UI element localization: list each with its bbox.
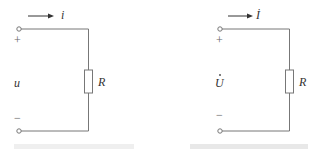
resistor-left (85, 70, 93, 93)
plus-sign-right: + (216, 34, 223, 46)
current-phasor-label-right: İ (256, 9, 260, 21)
terminal-top-right (218, 27, 222, 31)
plus-sign-left: + (14, 34, 21, 46)
current-arrow-left-icon (28, 14, 54, 19)
terminal-bottom-left (17, 129, 21, 133)
caption-right-cutoff (190, 144, 308, 149)
right-circuit (218, 27, 294, 133)
minus-sign-left: − (14, 112, 21, 124)
terminal-top-left (17, 27, 21, 31)
caption-left-cutoff (14, 144, 134, 149)
left-circuit (17, 27, 93, 133)
voltage-phasor-label-right: U (215, 77, 224, 89)
resistor-label-right: R (299, 76, 306, 88)
current-arrow-right-icon (228, 14, 253, 19)
minus-sign-right: − (216, 109, 223, 121)
circuit-diagram (0, 0, 316, 149)
voltage-label-left: u (14, 77, 20, 89)
phasor-dot-icon (219, 74, 221, 76)
resistor-label-left: R (98, 76, 105, 88)
current-label-left: i (61, 9, 64, 21)
terminal-bottom-right (218, 129, 222, 133)
resistor-right (286, 70, 294, 93)
